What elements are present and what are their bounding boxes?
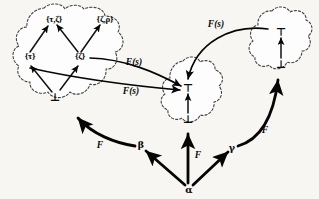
node-beta: β (138, 139, 144, 150)
diagram-canvas: {τ} {ζ} {τ,ζ} {ζ,ρ} ⊥ ⊤ ⊥ ⊤ ⊥ (0, 0, 319, 199)
node-left-bottom: ⊥ (50, 91, 60, 104)
arrow-gamma-to-right (238, 80, 278, 146)
node-left-tau-zeta: {τ,ζ} (46, 14, 63, 24)
node-alpha: α (185, 184, 193, 195)
node-right-bottom: ⊥ (276, 58, 286, 71)
figure-root: {τ} {ζ} {τ,ζ} {ζ,ρ} ⊥ ⊤ ⊥ ⊤ ⊥ (0, 0, 319, 199)
arrow-alpha-to-beta (146, 151, 185, 185)
node-right-top: ⊤ (276, 26, 286, 39)
label-f-middle: F (194, 150, 202, 160)
label-fs-upper: F(s) (125, 57, 142, 68)
node-middle-bottom: ⊥ (183, 113, 193, 126)
arrow-beta-to-left (78, 118, 135, 146)
node-middle-top: ⊤ (183, 82, 193, 95)
label-f-right: F (261, 125, 269, 135)
node-left-zeta: {ζ} (75, 51, 86, 61)
label-f-left: F (96, 140, 104, 150)
node-gamma: γ (229, 142, 236, 153)
label-fs-lower: F(s) (122, 86, 139, 97)
node-left-zeta-rho: {ζ,ρ} (97, 14, 115, 24)
label-fs-right: F(s) (207, 19, 224, 30)
node-left-tau: {τ} (25, 51, 36, 61)
